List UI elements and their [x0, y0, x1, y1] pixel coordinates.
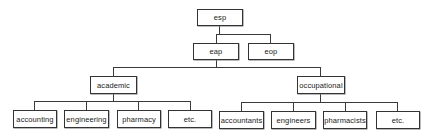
connector	[293, 102, 294, 111]
node-eap: eap	[193, 43, 239, 60]
node-engineers: engineers	[271, 111, 316, 129]
node-esp: esp	[197, 9, 243, 26]
connector	[397, 102, 398, 111]
node-occupational-etc: etc.	[376, 111, 420, 129]
node-accountants: accountants	[219, 111, 264, 129]
node-pharmacy: pharmacy	[117, 110, 161, 128]
connector	[113, 93, 114, 101]
node-occupational: occupational	[297, 76, 345, 94]
connector	[190, 101, 191, 110]
node-pharmacists: pharmacists	[323, 111, 367, 129]
node-academic: academic	[90, 76, 137, 94]
connector	[241, 102, 398, 103]
connector	[34, 101, 191, 102]
node-accounting: accounting	[13, 110, 57, 128]
connector	[113, 67, 114, 76]
connector	[216, 34, 271, 35]
connector	[113, 67, 321, 68]
connector	[86, 101, 87, 110]
connector	[216, 34, 217, 43]
connector	[270, 34, 271, 43]
connector	[241, 102, 242, 111]
tree-diagram: esp eap eop academic occupational accoun…	[0, 0, 427, 138]
connector	[320, 94, 321, 102]
connector	[320, 67, 321, 76]
node-engineering: engineering	[64, 110, 109, 128]
connector	[345, 102, 346, 111]
node-eop: eop	[248, 43, 294, 60]
connector	[34, 101, 35, 110]
connector	[138, 101, 139, 110]
node-academic-etc: etc.	[168, 110, 212, 128]
